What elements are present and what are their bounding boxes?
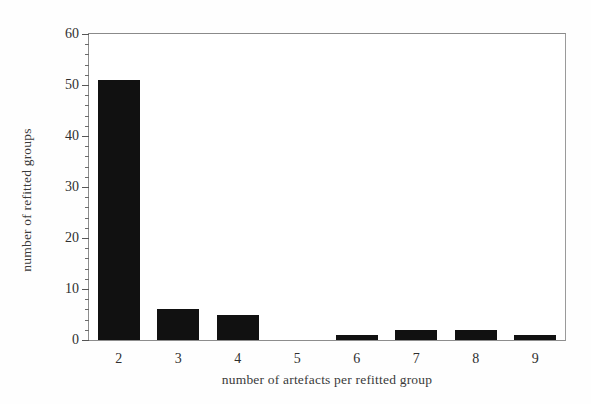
y-minor-tick: [85, 309, 89, 310]
y-minor-tick: [85, 167, 89, 168]
y-minor-tick: [85, 299, 89, 300]
bar-7: [395, 330, 437, 340]
y-minor-tick: [85, 126, 89, 127]
y-minor-tick: [85, 228, 89, 229]
y-minor-tick: [85, 44, 89, 45]
y-minor-tick: [85, 320, 89, 321]
y-tick-mark: [82, 238, 89, 239]
plot-area: 010203040506023456789: [89, 34, 565, 340]
y-tick-mark: [82, 340, 89, 341]
y-axis-title: number of refitted groups: [14, 46, 40, 354]
y-minor-tick: [85, 330, 89, 331]
x-axis-title: number of artefacts per refitted group: [88, 372, 566, 388]
bar-4: [217, 315, 259, 341]
y-minor-tick: [85, 197, 89, 198]
y-minor-tick: [85, 75, 89, 76]
y-tick-label: 10: [65, 281, 79, 297]
y-minor-tick: [85, 95, 89, 96]
y-tick-label: 40: [65, 128, 79, 144]
y-minor-tick: [85, 116, 89, 117]
x-tick-label-6: 6: [353, 351, 360, 367]
y-tick-mark: [82, 187, 89, 188]
bar-3: [157, 309, 199, 340]
x-tick-label-8: 8: [472, 351, 479, 367]
y-minor-tick: [85, 146, 89, 147]
y-minor-tick: [85, 248, 89, 249]
x-tick-label-7: 7: [413, 351, 420, 367]
y-minor-tick: [85, 218, 89, 219]
y-tick-label: 60: [65, 26, 79, 42]
y-minor-tick: [85, 207, 89, 208]
y-tick-mark: [82, 289, 89, 290]
x-tick-label-2: 2: [115, 351, 122, 367]
y-minor-tick: [85, 105, 89, 106]
y-minor-tick: [85, 258, 89, 259]
x-tick-label-3: 3: [175, 351, 182, 367]
bar-2: [98, 80, 140, 340]
y-minor-tick: [85, 54, 89, 55]
y-tick-mark: [82, 85, 89, 86]
y-tick-label: 50: [65, 77, 79, 93]
bar-9: [514, 335, 556, 340]
y-tick-label: 20: [65, 230, 79, 246]
y-tick-label: 30: [65, 179, 79, 195]
y-minor-tick: [85, 156, 89, 157]
bar-6: [336, 335, 378, 340]
y-minor-tick: [85, 269, 89, 270]
y-minor-tick: [85, 279, 89, 280]
bar-8: [455, 330, 497, 340]
y-tick-label: 0: [72, 332, 79, 348]
y-minor-tick: [85, 65, 89, 66]
x-tick-label-4: 4: [234, 351, 241, 367]
x-tick-label-9: 9: [532, 351, 539, 367]
x-tick-label-5: 5: [294, 351, 301, 367]
y-minor-tick: [85, 177, 89, 178]
plot-frame: 010203040506023456789: [88, 33, 566, 341]
bar-chart-figure: number of refitted groups 01020304050602…: [0, 0, 591, 404]
y-tick-mark: [82, 136, 89, 137]
y-tick-mark: [82, 34, 89, 35]
